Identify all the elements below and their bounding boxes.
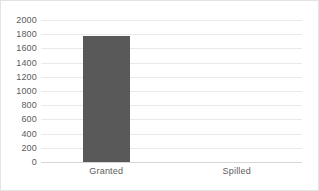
gridline — [41, 77, 302, 78]
y-axis: 2000180016001400120010008006004002000 — [1, 20, 37, 162]
axis-baseline — [41, 162, 302, 163]
gridline — [41, 20, 302, 21]
gridline — [41, 134, 302, 135]
gridline — [41, 34, 302, 35]
y-tick-label: 1000 — [16, 87, 37, 96]
gridline — [41, 48, 302, 49]
gridline — [41, 119, 302, 120]
bar-granted[interactable] — [83, 36, 130, 162]
y-tick-label: 1400 — [16, 58, 37, 67]
y-tick-label: 0 — [32, 158, 37, 167]
x-tick-label-granted: Granted — [89, 166, 123, 177]
x-tick-label-spilled: Spilled — [223, 166, 251, 177]
gridline — [41, 63, 302, 64]
y-tick-label: 1200 — [16, 72, 37, 81]
y-tick-label: 400 — [21, 129, 37, 138]
chart-container: 2000180016001400120010008006004002000 Gr… — [0, 0, 319, 191]
y-tick-label: 1600 — [16, 44, 37, 53]
x-axis: GrantedSpilled — [41, 166, 302, 182]
y-tick-label: 800 — [21, 101, 37, 110]
plot-area — [41, 20, 302, 162]
gridline — [41, 105, 302, 106]
gridline — [41, 91, 302, 92]
gridline — [41, 148, 302, 149]
y-tick-label: 1800 — [16, 30, 37, 39]
y-tick-label: 2000 — [16, 16, 37, 25]
y-tick-label: 600 — [21, 115, 37, 124]
y-tick-label: 200 — [21, 143, 37, 152]
